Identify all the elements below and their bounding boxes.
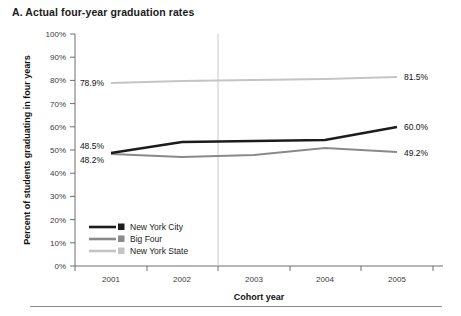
legend-item-new-york-state[interactable]: New York State [89,246,188,256]
legend-swatch-marker-nyc [118,224,125,231]
series-line-new-york-state [111,77,397,83]
x-tick-label-2003: 2003 [245,275,263,284]
legend-swatch-marker-ny-state [118,248,125,255]
x-tick-label-2005: 2005 [388,275,406,284]
legend-label-big-four: Big Four [130,234,162,244]
y-tick-label-10: 10% [50,239,66,248]
annotation-left-ny-state: 78.9% [80,78,105,88]
annotation-left-big-four: 48.2% [80,155,105,165]
annotation-right-nyc: 60.0% [404,122,429,132]
figure-container: A. Actual four-year graduation rates 100… [0,0,461,316]
legend: New York City Big Four New York State [89,222,188,256]
x-axis-title: Cohort year [234,292,285,302]
y-tick-label-0: 0% [54,262,66,271]
y-tick-label-50: 50% [50,146,66,155]
x-tick-label-2004: 2004 [316,275,334,284]
y-tick-label-90: 90% [50,53,66,62]
legend-label-nyc: New York City [130,222,184,232]
legend-item-big-four[interactable]: Big Four [89,234,162,244]
legend-label-ny-state: New York State [130,246,188,256]
y-axis-ticks [70,34,75,266]
y-tick-label-60: 60% [50,123,66,132]
y-tick-label-70: 70% [50,100,66,109]
y-tick-label-80: 80% [50,76,66,85]
series-line-big-four [111,148,397,157]
y-tick-label-20: 20% [50,216,66,225]
annotation-left-nyc: 48.5% [80,141,105,151]
line-chart: 100% 90% 80% 70% 60% 50% 40% 30% 20% 10%… [0,0,461,316]
legend-item-new-york-city[interactable]: New York City [89,222,184,232]
y-tick-label-30: 30% [50,192,66,201]
bottom-divider [30,306,442,307]
x-axis-ticks [75,266,433,271]
y-tick-label-40: 40% [50,169,66,178]
x-tick-label-2002: 2002 [173,275,191,284]
y-tick-label-100: 100% [46,30,66,39]
annotation-right-big-four: 49.2% [404,148,429,158]
x-tick-label-2001: 2001 [102,275,120,284]
legend-swatch-marker-big-four [118,236,125,243]
annotation-right-ny-state: 81.5% [404,72,429,82]
y-axis-title: Percent of students graduating in four y… [22,55,32,245]
